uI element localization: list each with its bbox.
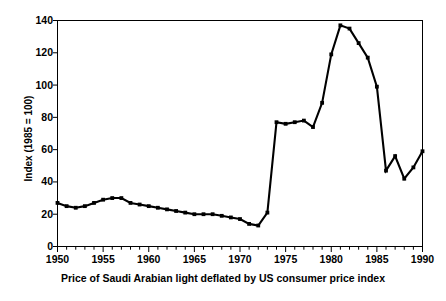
x-tick-label: 1960 [129, 254, 169, 265]
x-tick-label: 1965 [174, 254, 214, 265]
x-tick-label: 1970 [220, 254, 260, 265]
x-tick-label: 1950 [38, 254, 78, 265]
x-tick-label: 1985 [357, 254, 397, 265]
x-tick-label: 1980 [311, 254, 351, 265]
chart-figure: 020406080100120140 195019551960196519701… [0, 0, 446, 301]
x-tick-label: 1955 [83, 254, 123, 265]
x-tick-label: 1975 [266, 254, 306, 265]
x-tick-label-container: 195019551960196519701975198019851990 [0, 0, 446, 301]
chart-caption: Price of Saudi Arabian light deflated by… [0, 272, 446, 284]
x-tick-label: 1990 [403, 254, 443, 265]
y-axis-title: Index (1985 = 100) [23, 49, 34, 229]
